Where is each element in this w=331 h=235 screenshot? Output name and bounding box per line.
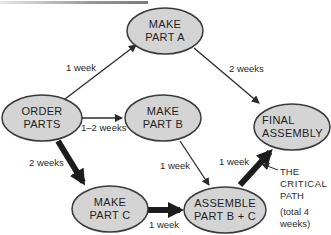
edge-label-partC-to-assembleBC: 1 week [149,219,179,230]
node-make-part-a-line1: MAKE [127,18,203,31]
edge-label-order-to-partA: 1 week [66,62,96,73]
node-make-part-c-label: MAKE PART C [72,196,148,222]
node-assemble-part-bc-line1: ASSEMBLE [184,197,266,210]
node-make-part-c-line2: PART C [72,209,148,222]
node-assemble-part-bc-label: ASSEMBLE PART B + C [184,197,266,223]
edge-label-partA-to-final: 2 weeks [229,63,264,74]
annotation-line2: CRITICAL [280,178,327,190]
node-assemble-part-bc-line2: PART B + C [184,210,266,223]
critical-path-annotation: THE CRITICAL PATH (total 4 weeks) [280,166,327,230]
annotation-line1: THE [280,166,327,178]
annotation-line5: weeks) [280,218,327,230]
edge-partA-to-final [194,48,259,103]
node-order-parts-label: ORDER PARTS [2,105,82,131]
node-final-assembly-label: FINAL ASSEMBLY [254,114,330,140]
edge-label-order-to-partC: 2 weeks [29,157,64,168]
node-make-part-b-line2: PART B [125,118,201,131]
node-make-part-a-line2: PART A [127,31,203,44]
edge-label-assembleBC-to-final: 1 week [219,156,249,167]
node-final-assembly-line1: FINAL [262,114,330,127]
node-make-part-c-line1: MAKE [72,196,148,209]
node-make-part-a-label: MAKE PART A [127,18,203,44]
critical-path-pointer [262,164,278,170]
node-make-part-b-line1: MAKE [125,105,201,118]
node-order-parts-line2: PARTS [2,118,82,131]
node-make-part-b-label: MAKE PART B [125,105,201,131]
node-final-assembly-line2: ASSEMBLY [262,127,330,140]
edge-label-partB-to-assembleBC: 1 week [160,160,190,171]
annotation-line3: PATH [280,190,327,202]
edge-label-order-to-partB: 1–2 weeks [81,122,126,133]
node-order-parts-line1: ORDER [2,105,82,118]
annotation-line4: (total 4 [280,206,327,218]
